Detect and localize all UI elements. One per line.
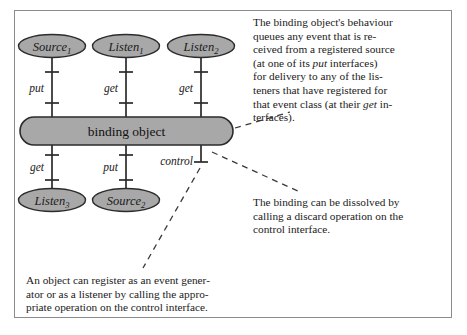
connector-control xyxy=(194,145,208,162)
annotation-line: ceived from a registered source xyxy=(253,43,439,57)
svg-text:Source1: Source1 xyxy=(33,40,72,56)
annotation-line: The binding can be dissolved by xyxy=(253,196,439,210)
annotation-line: queues any event that is re- xyxy=(253,30,439,44)
node-listen3-sub: 3 xyxy=(64,200,69,210)
connector-listen1 xyxy=(119,58,133,117)
annotation-dissolve: The binding can be dissolved bycalling a… xyxy=(253,196,439,237)
node-listen1: Listen1 xyxy=(93,35,160,58)
svg-text:Listen3: Listen3 xyxy=(34,194,70,210)
annotation-line: terfaces). xyxy=(253,111,439,125)
binding-object-label: binding object xyxy=(88,124,166,139)
leader-line-register xyxy=(143,168,200,268)
node-source1: Source1 xyxy=(19,35,86,58)
annotation-line: for delivery to any of the lis- xyxy=(253,70,439,84)
node-listen2: Listen2 xyxy=(168,35,235,58)
annotation-line: calling a discard operation on the xyxy=(253,210,439,224)
annotation-line: The binding object's behaviour xyxy=(253,16,439,30)
interface-label-put-source1: put xyxy=(28,82,45,95)
annotation-line: An object can register as an event gener… xyxy=(26,274,238,288)
node-source1-name: Source xyxy=(33,40,68,54)
node-source2-name: Source xyxy=(107,194,142,208)
svg-text:Source2: Source2 xyxy=(107,194,146,210)
connector-listen2 xyxy=(194,58,208,117)
svg-text:Listen2: Listen2 xyxy=(183,40,220,56)
annotation-line: control interface. xyxy=(253,223,439,237)
annotation-line: that event class (at their get in- xyxy=(253,98,439,112)
node-listen3-name: Listen xyxy=(34,194,66,208)
node-listen1-sub: 1 xyxy=(139,46,143,56)
annotation-line: teners that have registered for xyxy=(253,84,439,98)
annotation-line: ator or as a listener by calling the app… xyxy=(26,288,238,302)
leader-line-dissolve xyxy=(212,152,300,192)
node-listen1-name: Listen xyxy=(108,40,140,54)
figure-canvas: binding object Source1 Listen1 Listen2 xyxy=(0,0,467,335)
connector-listen3 xyxy=(45,145,59,190)
node-listen3: Listen3 xyxy=(19,189,86,212)
interface-label-control: control xyxy=(160,155,193,167)
svg-text:Listen1: Listen1 xyxy=(108,40,144,56)
annotation-behaviour: The binding object's behaviourqueues any… xyxy=(253,16,439,125)
node-source2: Source2 xyxy=(93,189,160,212)
interface-label-get-listen2: get xyxy=(179,82,194,95)
interface-label-put-source2: put xyxy=(102,161,119,174)
node-listen2-name: Listen xyxy=(183,40,215,54)
connector-source2 xyxy=(119,145,133,190)
connector-source1 xyxy=(45,58,59,117)
annotation-register: An object can register as an event gener… xyxy=(26,274,238,315)
interface-label-get-listen3: get xyxy=(30,161,45,174)
node-source1-sub: 1 xyxy=(67,46,71,56)
annotation-line: (at one of its put interfaces) xyxy=(253,57,439,71)
binding-object-node: binding object xyxy=(20,117,233,145)
annotation-line: priate operation on the control interfac… xyxy=(26,301,238,315)
interface-label-get-listen1: get xyxy=(104,82,119,95)
